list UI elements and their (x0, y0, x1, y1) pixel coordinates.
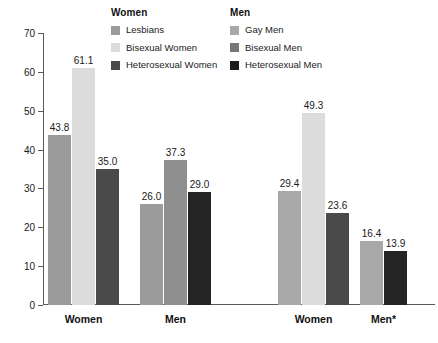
bar[interactable]: 13.9 (384, 251, 407, 305)
bar-group: 16.413.9Men* (360, 33, 407, 305)
x-axis-group-label: Women (65, 313, 103, 325)
y-axis-line (43, 33, 44, 305)
men-legend-title: Men (230, 8, 322, 18)
bar[interactable]: 43.8 (48, 135, 71, 305)
bar[interactable]: 49.3 (302, 113, 325, 305)
y-tick-label: 40 (24, 144, 35, 155)
bar[interactable]: 37.3 (164, 160, 187, 305)
y-tick-mark (38, 305, 43, 306)
bar-value-label: 16.4 (362, 228, 381, 239)
plot-area: 010203040506070 43.861.135.0Women26.037.… (43, 33, 435, 305)
bar-value-label: 35.0 (98, 156, 117, 167)
bar-chart: Women Lesbians Bisexual Women Heterosexu… (0, 0, 438, 343)
y-tick-label: 0 (29, 300, 35, 311)
y-tick-label: 20 (24, 222, 35, 233)
x-axis-group-label: Men* (371, 313, 396, 325)
x-axis-group-label: Women (295, 313, 333, 325)
bar-value-label: 43.8 (50, 122, 69, 133)
bar[interactable]: 23.6 (326, 213, 349, 305)
bar[interactable]: 29.4 (278, 191, 301, 305)
y-tick-label: 60 (24, 66, 35, 77)
y-tick-label: 30 (24, 183, 35, 194)
y-tick-mark (38, 150, 43, 151)
y-tick-mark (38, 266, 43, 267)
y-tick: 10 (43, 266, 44, 267)
x-axis-group-label: Men (165, 313, 186, 325)
y-tick-mark (38, 188, 43, 189)
bar[interactable]: 26.0 (140, 204, 163, 305)
bar-value-label: 26.0 (142, 191, 161, 202)
y-tick: 30 (43, 188, 44, 189)
y-tick-label: 10 (24, 261, 35, 272)
bar[interactable]: 35.0 (96, 169, 119, 305)
bar-value-label: 61.1 (74, 55, 93, 66)
y-tick: 50 (43, 111, 44, 112)
bar-value-label: 49.3 (304, 100, 323, 111)
bar[interactable]: 61.1 (72, 68, 95, 305)
y-tick-mark (38, 33, 43, 34)
bar[interactable]: 29.0 (188, 192, 211, 305)
women-legend-title: Women (111, 8, 217, 18)
bar-value-label: 37.3 (166, 147, 185, 158)
y-tick: 40 (43, 150, 44, 151)
bar[interactable]: 16.4 (360, 241, 383, 305)
y-tick-mark (38, 72, 43, 73)
bar-group: 29.449.323.6Women (278, 33, 349, 305)
y-tick-label: 70 (24, 28, 35, 39)
y-tick: 60 (43, 72, 44, 73)
bar-value-label: 29.4 (280, 178, 299, 189)
bar-group: 43.861.135.0Women (48, 33, 119, 305)
y-tick-mark (38, 227, 43, 228)
bar-value-label: 29.0 (190, 179, 209, 190)
bar-value-label: 13.9 (386, 238, 405, 249)
y-tick-label: 50 (24, 105, 35, 116)
y-tick: 0 (43, 305, 44, 306)
y-tick: 70 (43, 33, 44, 34)
y-tick: 20 (43, 227, 44, 228)
bar-group: 26.037.329.0Men (140, 33, 211, 305)
bar-value-label: 23.6 (328, 200, 347, 211)
y-tick-mark (38, 111, 43, 112)
